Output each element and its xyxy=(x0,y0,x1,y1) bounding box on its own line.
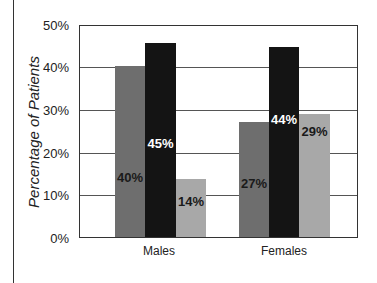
bar-females-series2: 44% xyxy=(269,47,299,237)
bar-males-series3: 14% xyxy=(176,179,206,237)
bar-value-label: 29% xyxy=(299,124,330,139)
bar-value-label: 27% xyxy=(239,176,269,191)
y-tick-20: 20% xyxy=(29,146,69,161)
y-tick-10: 10% xyxy=(29,188,69,203)
plot-area: 40% 45% 14% 27% 44% 29% xyxy=(79,25,358,238)
y-tick-0: 0% xyxy=(29,231,69,246)
bar-males-series2: 45% xyxy=(145,43,176,237)
bar-value-label: 40% xyxy=(115,170,145,185)
x-category-males: Males xyxy=(143,244,175,258)
bar-value-label: 14% xyxy=(176,194,206,209)
y-tick-40: 40% xyxy=(29,60,69,75)
bar-females-series1: 27% xyxy=(239,122,269,237)
bar-value-label: 45% xyxy=(145,136,176,151)
x-category-females: Females xyxy=(261,244,307,258)
y-tick-50: 50% xyxy=(29,18,69,33)
bar-females-series3: 29% xyxy=(299,114,330,237)
bar-males-series1: 40% xyxy=(115,66,145,237)
bar-value-label: 44% xyxy=(269,112,299,127)
y-axis-label: Percentage of Patients xyxy=(25,56,42,208)
left-border-line xyxy=(13,0,14,283)
y-tick-30: 30% xyxy=(29,103,69,118)
